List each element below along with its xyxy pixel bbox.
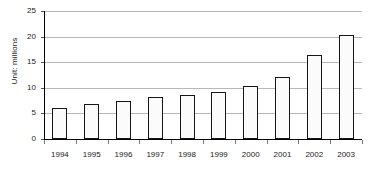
y-axis-tick-label: 20 xyxy=(0,33,36,41)
bar xyxy=(148,97,163,139)
x-axis-tick xyxy=(330,140,331,144)
x-axis-tick xyxy=(139,140,140,144)
y-axis-tick-label: 10 xyxy=(0,84,36,92)
bar xyxy=(180,95,195,139)
bar xyxy=(275,77,290,139)
y-axis-tick-label: 15 xyxy=(0,58,36,66)
bar xyxy=(211,92,226,139)
x-axis-tick xyxy=(235,140,236,144)
x-axis-tick xyxy=(203,140,204,144)
y-axis-tick-label: 25 xyxy=(0,7,36,15)
bar xyxy=(84,104,99,139)
plot-area xyxy=(44,11,362,139)
y-axis-tick-label: 5 xyxy=(0,109,36,117)
x-axis-tick xyxy=(108,140,109,144)
x-axis-tick xyxy=(267,140,268,144)
x-axis-tick xyxy=(298,140,299,144)
bar xyxy=(52,108,67,139)
bar xyxy=(243,86,258,139)
bar xyxy=(116,101,131,139)
bar xyxy=(339,35,354,139)
x-axis-tick xyxy=(44,140,45,144)
bar xyxy=(307,55,322,139)
bar-chart: Unit: millions 0510152025 19941995199619… xyxy=(0,0,369,173)
x-axis-tick-label: 2003 xyxy=(326,150,366,159)
y-axis-tick-label: 0 xyxy=(0,135,36,143)
x-axis-tick xyxy=(76,140,77,144)
x-axis-tick xyxy=(362,140,363,144)
x-axis-tick xyxy=(171,140,172,144)
